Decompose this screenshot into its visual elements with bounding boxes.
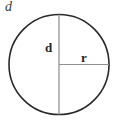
circle-diagram-figure: ld d r	[0, 0, 117, 126]
circle-diagram-svg	[0, 0, 117, 126]
radius-label: r	[81, 51, 87, 64]
diameter-label: d	[45, 41, 52, 54]
